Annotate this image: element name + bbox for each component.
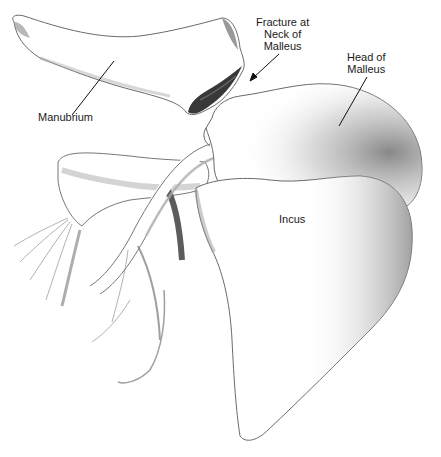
label-manubrium: Manubrium <box>38 111 93 123</box>
label-incus: Incus <box>279 213 305 225</box>
label-fracture-line-2: Neck of <box>256 28 309 40</box>
label-head-line-2: Malleus <box>347 63 386 75</box>
label-fracture-line-1: Fracture at <box>256 16 309 28</box>
fracture-arrowhead <box>250 73 257 81</box>
manubrium-bone <box>13 15 244 114</box>
label-head-of-malleus: Head of Malleus <box>347 51 386 75</box>
label-incus-text: Incus <box>279 213 305 225</box>
label-head-line-1: Head of <box>347 51 386 63</box>
fracture-arrow <box>253 54 279 78</box>
label-fracture: Fracture at Neck of Malleus <box>256 16 309 52</box>
label-fracture-line-3: Malleus <box>256 40 309 52</box>
ossicle-illustration: Manubrium Fracture at Neck of Malleus He… <box>0 0 441 457</box>
label-manubrium-text: Manubrium <box>38 111 93 123</box>
